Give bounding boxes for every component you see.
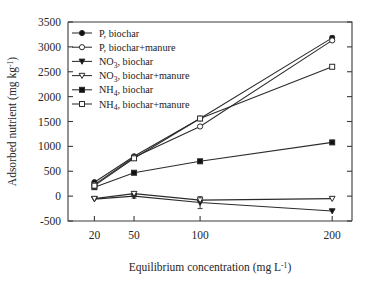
data-point-marker bbox=[330, 38, 335, 43]
legend-label: P, biochar+manure bbox=[99, 42, 176, 53]
data-point-marker bbox=[132, 170, 137, 175]
x-tick-label: 20 bbox=[89, 229, 101, 241]
y-axis-title: Adsorbed nutrient (mg kg-1) bbox=[6, 57, 19, 186]
y-tick-label: 500 bbox=[44, 165, 62, 177]
y-tick-label: 1000 bbox=[38, 140, 61, 152]
y-tick-label: 2500 bbox=[38, 66, 61, 78]
data-point-marker bbox=[198, 116, 203, 121]
data-point-marker bbox=[330, 64, 335, 69]
legend-label: P, biochar bbox=[99, 28, 140, 39]
x-tick-label: 200 bbox=[324, 229, 342, 241]
y-tick-label: -500 bbox=[40, 215, 61, 227]
legend-marker bbox=[79, 45, 84, 50]
y-tick-label: 3500 bbox=[38, 16, 61, 28]
legend-marker bbox=[80, 102, 85, 107]
data-point-marker bbox=[198, 159, 203, 164]
y-tick-label: 2000 bbox=[38, 91, 61, 103]
y-tick-label: 1500 bbox=[38, 116, 61, 128]
legend-marker bbox=[80, 87, 85, 92]
y-tick-label: 3000 bbox=[38, 41, 61, 53]
adsorbed-nutrient-line-chart: -5000500100015002000250030003500 2050100… bbox=[0, 0, 367, 287]
x-tick-label: 50 bbox=[128, 229, 140, 241]
x-axis-title: Equilibrium concentration (mg L-1) bbox=[129, 261, 292, 274]
chart-figure: -5000500100015002000250030003500 2050100… bbox=[0, 0, 367, 287]
legend-marker bbox=[79, 30, 84, 35]
data-point-marker bbox=[92, 183, 97, 188]
y-tick-label: 0 bbox=[55, 190, 61, 202]
x-tick-label: 100 bbox=[191, 229, 209, 241]
data-point-marker bbox=[197, 124, 202, 129]
data-point-marker bbox=[132, 156, 137, 161]
data-point-marker bbox=[330, 140, 335, 145]
